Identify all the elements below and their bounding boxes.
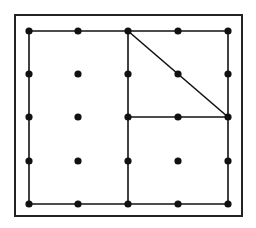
grid-dot bbox=[174, 113, 181, 120]
grid-dot bbox=[74, 27, 81, 34]
geoboard-diagram bbox=[0, 0, 256, 228]
grid-dot bbox=[124, 27, 131, 34]
grid-dot bbox=[224, 27, 231, 34]
grid-dot bbox=[224, 200, 231, 207]
grid-dot bbox=[25, 113, 32, 120]
grid-dot bbox=[224, 70, 231, 77]
grid-dot bbox=[124, 113, 131, 120]
grid-dot bbox=[25, 157, 32, 164]
grid-dot bbox=[174, 70, 181, 77]
grid-dot bbox=[224, 113, 231, 120]
grid-dot bbox=[74, 157, 81, 164]
grid-dot bbox=[25, 200, 32, 207]
grid-dot bbox=[124, 200, 131, 207]
grid-dot bbox=[25, 27, 32, 34]
grid-dot bbox=[74, 200, 81, 207]
grid-dot bbox=[25, 70, 32, 77]
grid-dot bbox=[174, 200, 181, 207]
grid-dot bbox=[174, 157, 181, 164]
grid-dot bbox=[74, 113, 81, 120]
grid-dot bbox=[174, 27, 181, 34]
grid-dot bbox=[74, 70, 81, 77]
grid-dot bbox=[224, 157, 231, 164]
grid-dot bbox=[124, 157, 131, 164]
grid-dot bbox=[124, 70, 131, 77]
